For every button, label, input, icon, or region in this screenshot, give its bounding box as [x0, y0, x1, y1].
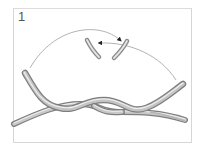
rotation-arrow-counterclockwise — [100, 43, 176, 80]
rotation-arrow-clockwise — [30, 30, 120, 68]
wire-end-left-detached — [87, 40, 99, 57]
wire-twist-illustration — [0, 0, 201, 154]
wire-b — [24, 72, 183, 109]
